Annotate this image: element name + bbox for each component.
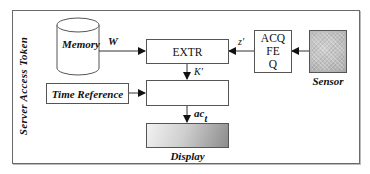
extr-box: EXTR — [146, 39, 229, 64]
memory-label: Memory — [62, 38, 94, 50]
sensor-label: Sensor — [307, 75, 349, 87]
acq-fe-q-box: ACQ FE Q — [254, 30, 292, 73]
time-reference-box: Time Reference — [46, 83, 129, 104]
compare-box — [146, 80, 229, 106]
fingerprint-image-icon — [312, 33, 344, 70]
display-label: Display — [146, 150, 229, 162]
edge-label-ac-t: act — [194, 107, 207, 122]
edge-label-k-prime: K' — [194, 66, 203, 77]
display-box — [146, 123, 229, 148]
sensor-box — [309, 30, 347, 73]
edge-label-w: W — [108, 35, 118, 47]
edge-label-z-prime: z' — [238, 36, 244, 47]
